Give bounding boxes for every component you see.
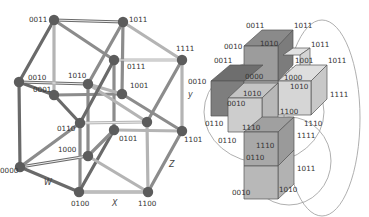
- axis-z: Z: [168, 160, 175, 169]
- label-left-0010: 0010: [188, 77, 207, 86]
- label-bottom-1010: 1010: [279, 185, 298, 194]
- tesseract-diagram: 0011 1011 1111 0111 0010 1010 0001 1001 …: [0, 15, 202, 208]
- label-0100: 0100: [71, 199, 90, 208]
- figure-canvas: 0011 1011 1111 0111 0010 1010 0001 1001 …: [0, 0, 369, 217]
- label-1010: 1010: [68, 71, 87, 80]
- node-0010: [14, 77, 24, 87]
- label-0101: 0101: [119, 134, 137, 143]
- label-right-1111b: 1111: [297, 131, 315, 140]
- node-1001: [117, 89, 127, 99]
- label-1111: 1111: [176, 44, 194, 53]
- node-1000: [83, 151, 93, 161]
- label-top-0010: 0010: [224, 42, 243, 51]
- node-0111: [109, 55, 119, 65]
- node-1100: [143, 187, 153, 197]
- label-center-1110b: 1110: [256, 141, 275, 150]
- axis-w: W: [44, 178, 53, 187]
- label-right-1011b: 1011: [328, 56, 346, 65]
- label-center-1110: 1110: [242, 123, 261, 132]
- label-bottom-0010: 0010: [232, 188, 251, 197]
- label-1001: 1001: [130, 81, 148, 90]
- label-center-0110: 0110: [246, 153, 265, 162]
- node-1011: [118, 17, 128, 27]
- unfolded-tesseract-diagram: 0011 1011 0010 1010 1011 1001 1011 0011 …: [188, 20, 360, 216]
- label-top-0011: 0011: [246, 21, 264, 30]
- label-0010: 0010: [28, 73, 47, 82]
- label-center-1000: 1000: [284, 73, 303, 82]
- label-left-0110: 0110: [205, 119, 224, 128]
- label-1000: 1000: [58, 145, 77, 154]
- label-0111: 0111: [127, 62, 145, 71]
- label-right-1111: 1111: [330, 90, 348, 99]
- label-right-1001: 1001: [295, 56, 313, 65]
- label-right-1110: 1110: [304, 119, 323, 128]
- label-0001: 0001: [33, 85, 51, 94]
- label-1101: 1101: [184, 135, 202, 144]
- axis-x: X: [111, 199, 118, 208]
- node-1110: [142, 117, 152, 127]
- node-0011: [49, 15, 59, 25]
- label-right-1011c: 1011: [297, 164, 315, 173]
- label-center-0000: 0000: [245, 72, 264, 81]
- label-0000: 0000: [0, 166, 19, 175]
- tesseract-edges: [19, 20, 182, 192]
- node-0110: [75, 118, 85, 128]
- label-center-0010: 0010: [227, 99, 246, 108]
- label-center-1010b: 1010: [290, 82, 309, 91]
- label-left-0110b: 0110: [218, 136, 237, 145]
- label-top-1011: 1011: [294, 21, 312, 30]
- node-1111: [177, 55, 187, 65]
- label-center-1100: 1100: [280, 107, 299, 116]
- node-0100: [74, 187, 84, 197]
- node-0101: [109, 125, 119, 135]
- tesseract-labels: 0011 1011 1111 0111 0010 1010 0001 1001 …: [0, 15, 202, 208]
- axis-y: y: [187, 90, 193, 99]
- label-1100: 1100: [138, 199, 157, 208]
- node-1010: [83, 79, 93, 89]
- label-0011: 0011: [29, 15, 47, 24]
- label-1011: 1011: [129, 15, 147, 24]
- label-top-1010: 1010: [260, 39, 279, 48]
- label-right-1011a: 1011: [311, 40, 329, 49]
- label-left-0011: 0011: [214, 56, 232, 65]
- label-0110: 0110: [57, 124, 76, 133]
- label-center-1010: 1010: [243, 89, 262, 98]
